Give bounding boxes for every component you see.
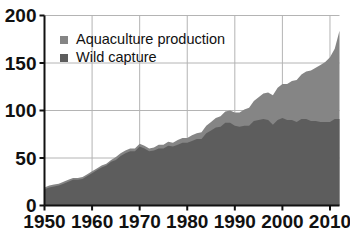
x-axis-tick-label: 1970 — [119, 211, 161, 232]
legend-label: Aquaculture production — [76, 31, 225, 47]
legend-swatch — [60, 54, 68, 62]
y-axis-tick-label: 100 — [5, 100, 37, 121]
y-axis-tick-label: 50 — [15, 148, 36, 169]
legend-swatch — [60, 36, 68, 44]
x-axis-tick-label: 1950 — [23, 211, 65, 232]
y-axis-tick-label: 200 — [5, 5, 37, 26]
x-axis-tick-label: 1990 — [214, 211, 256, 232]
x-axis-tick-label: 1980 — [166, 211, 208, 232]
legend-label: Wild capture — [76, 49, 157, 65]
x-axis-tick-labels: 1950196019701980199020002010 — [23, 211, 350, 232]
x-axis-tick-label: 2000 — [261, 211, 303, 232]
x-axis-tick-label: 2010 — [309, 211, 350, 232]
x-axis-tick-label: 1960 — [71, 211, 113, 232]
y-axis-tick-label: 150 — [5, 53, 37, 74]
stacked-area-chart: 050100150200 195019601970198019902000201… — [0, 0, 350, 241]
chart-container: 050100150200 195019601970198019902000201… — [0, 0, 350, 241]
